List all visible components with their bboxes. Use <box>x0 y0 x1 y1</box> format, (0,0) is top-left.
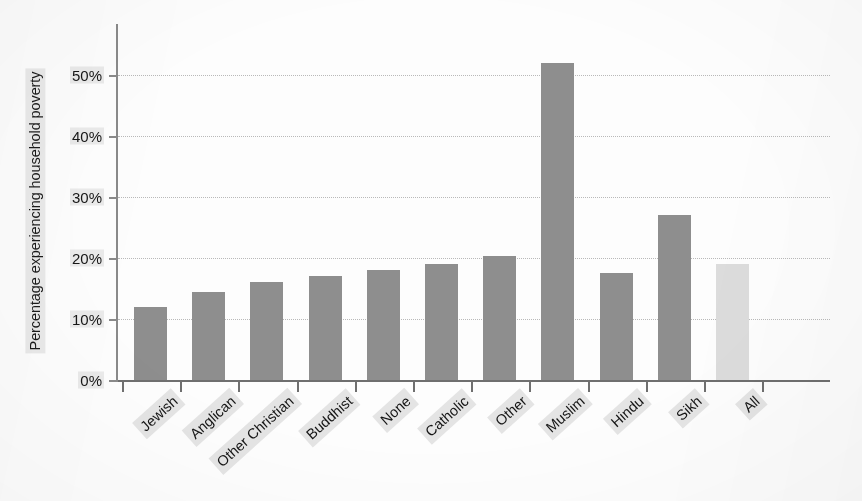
y-tick-mark <box>109 319 118 321</box>
x-tick-mark <box>471 381 473 392</box>
y-tick-mark <box>109 258 118 260</box>
y-tick-label: 50% <box>70 67 104 84</box>
x-axis-label-hindu: Hindu <box>602 388 651 435</box>
gridline-50 <box>118 75 830 76</box>
y-axis-title: Percentage experiencing household povert… <box>22 18 48 404</box>
x-tick-mark <box>238 381 240 392</box>
x-axis-label-muslim: Muslim <box>538 388 593 440</box>
gridline-40 <box>118 136 830 137</box>
bar-catholic[interactable] <box>425 264 458 380</box>
plot-area: 0%10%20%30%40%50% JewishAnglicanOther Ch… <box>118 30 830 380</box>
y-tick-mark <box>109 197 118 199</box>
x-tick-mark <box>180 381 182 392</box>
y-tick-label: 20% <box>70 250 104 267</box>
gridline-30 <box>118 197 830 198</box>
x-axis-label-all: All <box>735 388 768 420</box>
bar-other-christian[interactable] <box>250 282 283 380</box>
x-axis-label-buddhist: Buddhist <box>298 388 361 447</box>
x-tick-mark <box>704 381 706 392</box>
x-tick-mark <box>122 381 124 392</box>
bar-jewish[interactable] <box>134 307 167 380</box>
y-tick-label: 30% <box>70 189 104 206</box>
bar-chart: Percentage experiencing household povert… <box>0 0 862 501</box>
bar-sikh[interactable] <box>658 215 691 380</box>
x-axis-label-none: None <box>372 388 418 433</box>
bar-none[interactable] <box>367 270 400 380</box>
y-tick-mark <box>109 380 118 382</box>
gridline-20 <box>118 258 830 259</box>
bar-anglican[interactable] <box>192 292 225 380</box>
bar-hindu[interactable] <box>600 273 633 380</box>
x-axis-label-catholic: Catholic <box>417 388 477 445</box>
y-tick-mark <box>109 136 118 138</box>
x-axis-label-jewish: Jewish <box>132 388 186 439</box>
x-axis-label-other: Other <box>487 388 535 434</box>
bar-all[interactable] <box>716 264 749 380</box>
x-tick-mark <box>413 381 415 392</box>
x-axis-label-sikh: Sikh <box>668 388 710 429</box>
y-axis-line <box>116 24 118 382</box>
y-tick-label: 0% <box>78 372 104 389</box>
y-tick-label: 10% <box>70 311 104 328</box>
x-tick-mark <box>355 381 357 392</box>
bar-muslim[interactable] <box>541 63 574 380</box>
x-tick-mark <box>762 381 764 392</box>
x-tick-mark <box>646 381 648 392</box>
y-tick-label: 40% <box>70 128 104 145</box>
x-tick-mark <box>529 381 531 392</box>
y-axis-title-text: Percentage experiencing household povert… <box>25 69 45 354</box>
x-tick-mark <box>588 381 590 392</box>
bar-other[interactable] <box>483 256 516 380</box>
bar-buddhist[interactable] <box>309 276 342 380</box>
x-tick-mark <box>297 381 299 392</box>
y-tick-mark <box>109 75 118 77</box>
